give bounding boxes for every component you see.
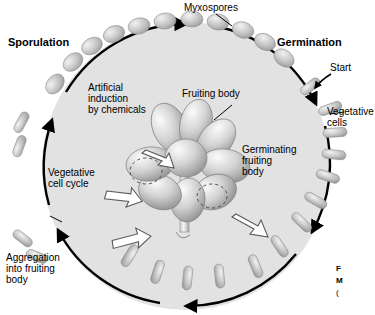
caption-line-3: ( (336, 288, 339, 297)
label-vegetative-cells: Vegetative cells (327, 106, 374, 128)
label-vegetative-cell-cycle: Vegetative cell cycle (48, 167, 95, 189)
figure-canvas: Sporulation Germination Myxospores Start… (0, 0, 375, 315)
label-start: Start (330, 62, 351, 73)
label-germination: Germination (277, 36, 342, 48)
caption-line-1: F (336, 264, 341, 273)
label-sporulation: Sporulation (8, 36, 69, 48)
caption-line-2: M (336, 276, 343, 285)
label-myxospores: Myxospores (184, 2, 238, 13)
label-germinating-fruiting-body: Germinating fruiting body (242, 144, 296, 178)
label-artificial-induction: Artificial induction by chemicals (88, 82, 146, 116)
label-fruiting-body: Fruiting body (182, 88, 240, 99)
label-aggregation: Aggregation into fruiting body (6, 252, 60, 286)
